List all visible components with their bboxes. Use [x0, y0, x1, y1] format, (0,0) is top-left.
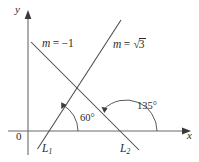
slope-value-l2: −1: [61, 37, 73, 49]
slope-variable-l1: m: [113, 38, 121, 50]
square-root-expression: √3: [132, 38, 145, 51]
radicand: 3: [139, 38, 146, 51]
slope-variable-l2: m: [42, 37, 50, 49]
figure-canvas: [0, 0, 199, 162]
slope-label-l1: m = √3: [113, 38, 146, 51]
line-label-l2: L2: [120, 143, 130, 155]
line-label-l2-subscript: 2: [126, 147, 130, 156]
slope-equals-l1: =: [124, 38, 131, 50]
slope-label-l2: m = −1: [42, 38, 74, 50]
line-label-l1-subscript: 1: [48, 147, 52, 156]
angle-label-135: 135°: [137, 101, 157, 112]
line-label-l1: L1: [42, 143, 52, 155]
y-axis-label: y: [15, 4, 20, 15]
x-axis-label: x: [187, 130, 192, 141]
origin-label: 0: [16, 131, 22, 142]
angle-arc-135-arrowhead: [102, 107, 108, 113]
angle-label-60: 60°: [80, 113, 95, 124]
angle-arc-60: [63, 105, 78, 131]
y-axis-arrowhead: [25, 10, 32, 19]
geometry-figure: y x 0 m = −1 m = √3 60° 135° L1 L2: [0, 0, 199, 162]
slope-equals-l2: =: [53, 37, 60, 49]
